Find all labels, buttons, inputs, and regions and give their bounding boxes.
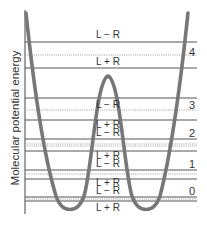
y-axis-title: Molecular potential energy [9,50,21,185]
energy-level-0 [25,197,197,201]
level-number-2: 2 [189,127,195,139]
level-0-minus-label: L − R [96,185,120,196]
level-4-plus-label: L + R [96,56,120,67]
level-4-minus-label: L − R [96,29,120,40]
level-3-minus-label: L − R [96,99,120,110]
level-number-3: 3 [189,99,195,111]
level-0-plus-label: L + R [96,202,120,213]
level-number-0: 0 [189,185,195,197]
double-well-potential-diagram: Molecular potential energy L − R L + R L… [0,0,207,226]
level-number-4: 4 [189,46,195,58]
level-1-minus-label: L − R [96,158,120,169]
level-2-minus-label: L − R [96,127,120,138]
level-number-1: 1 [189,158,195,170]
